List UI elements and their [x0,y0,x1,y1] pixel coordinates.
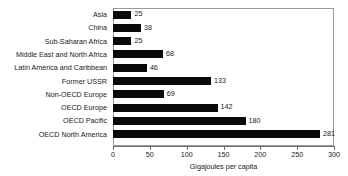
category-label: OECD North America [39,128,107,141]
bar [113,24,141,32]
bar-value-label: 46 [150,63,158,73]
category-label: OECD Europe [61,101,107,114]
bar-value-label: 25 [134,36,142,46]
x-axis-tick-label: 50 [146,150,154,160]
category-label: Latin America and Caribbean [14,61,107,74]
bar-row: 69 [113,88,334,101]
bar-row: 281 [113,128,334,141]
category-label: Former USSR [62,75,107,88]
category-label: OECD Pacific [63,114,107,127]
bar-value-label: 142 [221,102,233,112]
bar-row: 68 [113,48,334,61]
bar [113,77,211,85]
bar-value-label: 38 [144,23,152,33]
bars-layer: 25 38 25 68 46 133 69 142 [113,8,334,146]
bar [113,50,163,58]
category-label: China [88,21,107,34]
x-axis-tick-label: 300 [328,150,340,160]
bar [113,64,147,72]
category-label: Non-OECD Europe [45,88,107,101]
bar-value-label: 25 [134,9,142,19]
bar-row: 25 [113,35,334,48]
x-axis-tick-label: 250 [291,150,303,160]
category-label: Asia [93,8,107,21]
x-axis-tick-label: 200 [254,150,266,160]
category-label: Middle East and North Africa [16,48,107,61]
x-axis-tick-label: 0 [111,150,115,160]
bar-value-label: 133 [214,76,226,86]
bar-value-label: 68 [166,49,174,59]
bar-row: 25 [113,8,334,21]
bar-row: 38 [113,21,334,34]
bar-value-label: 281 [323,129,335,139]
bar-value-label: 69 [167,89,175,99]
bar-row: 142 [113,101,334,114]
bar-row: 180 [113,114,334,127]
bar [113,117,246,125]
bar-row: 133 [113,75,334,88]
bar [113,130,320,138]
bar-chart: Asia China Sub-Saharan Africa Middle Eas… [0,0,348,176]
category-label: Sub-Saharan Africa [45,35,107,48]
bar [113,104,218,112]
bar-row: 46 [113,61,334,74]
category-axis-labels: Asia China Sub-Saharan Africa Middle Eas… [0,8,110,146]
x-axis-tick-label: 150 [218,150,230,160]
x-axis-tick-label: 100 [181,150,193,160]
x-axis-title: Gigajoules per capita [113,162,334,172]
bar [113,90,164,98]
bar-value-label: 180 [249,116,261,126]
bar [113,37,131,45]
bar [113,11,131,19]
